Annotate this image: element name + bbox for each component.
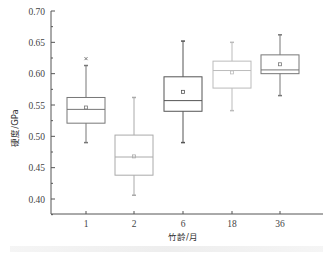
y-axis-title: 硬度/GPa [10,109,20,146]
y-tick-label: 0.55 [28,101,45,111]
y-tick-label: 0.40 [28,195,45,205]
box-plot-chart: 0.400.450.500.550.600.650.70 1261836 硬度/… [0,0,333,256]
y-tick-label: 0.65 [28,38,45,48]
y-tick-label: 0.50 [28,132,45,142]
box-series [67,35,299,195]
box-18 [213,42,251,110]
x-tick-label: 1 [84,219,89,229]
x-axis-title: 竹龄/月 [168,232,198,242]
box-1 [67,57,105,142]
box-2 [115,97,153,195]
y-tick-label: 0.60 [28,69,45,79]
x-tick-label: 6 [181,219,186,229]
box-6 [164,41,202,143]
y-axis: 0.400.450.500.550.600.650.70 [28,7,55,215]
x-tick-label: 18 [227,219,237,229]
y-tick-label: 0.70 [28,7,45,17]
y-tick-label: 0.45 [28,163,45,173]
figure-caption-faded [10,246,323,252]
x-axis: 1261836 [51,211,323,229]
x-tick-label: 36 [275,219,285,229]
box-36 [261,35,299,96]
x-tick-label: 2 [132,219,137,229]
